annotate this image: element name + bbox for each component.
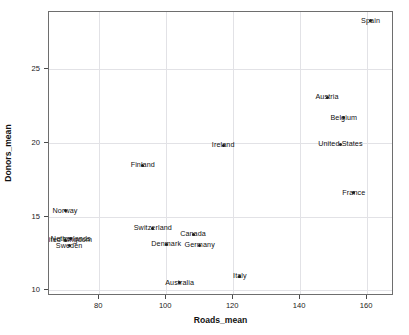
- point-label: United States: [318, 140, 362, 148]
- point-label: Belgium: [330, 114, 357, 122]
- y-tick-label: 20: [32, 137, 40, 146]
- gridline-vertical: [367, 12, 368, 294]
- point-label: Italy: [233, 272, 247, 280]
- x-tick-label: 140: [293, 301, 306, 310]
- y-tick-mark: [44, 68, 48, 69]
- x-tick-mark: [299, 295, 300, 299]
- point-label: Spain: [361, 17, 380, 25]
- point-label: Austria: [315, 93, 338, 101]
- point-label: Canada: [180, 230, 206, 238]
- x-tick-mark: [232, 295, 233, 299]
- gridline-horizontal: [49, 290, 392, 291]
- gridline-vertical: [99, 12, 100, 294]
- point-label: Norway: [53, 207, 78, 215]
- y-tick-mark: [44, 142, 48, 143]
- gridline-horizontal: [49, 69, 392, 70]
- y-tick-mark: [44, 289, 48, 290]
- x-tick-mark: [165, 295, 166, 299]
- x-axis-title: Roads_mean: [48, 315, 393, 325]
- gridline-horizontal: [49, 217, 392, 218]
- point-label: Finland: [131, 161, 155, 169]
- y-tick-label: 25: [32, 64, 40, 73]
- gridline-vertical: [233, 12, 234, 294]
- point-label: Germany: [185, 241, 215, 249]
- x-tick-mark: [366, 295, 367, 299]
- y-tick-mark: [44, 216, 48, 217]
- y-tick-label: 15: [32, 211, 40, 220]
- x-tick-label: 80: [94, 301, 102, 310]
- plot-panel: SpainAustriaBelgiumUnited StatesIrelandF…: [48, 11, 393, 295]
- scatter-chart: SpainAustriaBelgiumUnited StatesIrelandF…: [0, 0, 409, 335]
- gridline-vertical: [300, 12, 301, 294]
- point-label: Ireland: [212, 141, 235, 149]
- gridline-vertical: [166, 12, 167, 294]
- point-label: Denmark: [151, 240, 181, 248]
- point-label: France: [342, 189, 365, 197]
- y-tick-label: 10: [32, 285, 40, 294]
- x-tick-label: 120: [226, 301, 239, 310]
- y-axis-title: Donors_mean: [3, 124, 13, 181]
- point-label: Australia: [165, 279, 194, 287]
- point-label: Switzerland: [134, 224, 172, 232]
- x-tick-label: 100: [159, 301, 172, 310]
- point-label: Sweden: [56, 242, 83, 250]
- x-tick-label: 160: [360, 301, 373, 310]
- x-tick-mark: [98, 295, 99, 299]
